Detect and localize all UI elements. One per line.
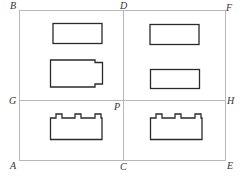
label-a: A	[10, 161, 16, 171]
shape-middle-right	[151, 70, 200, 89]
label-p: P	[114, 102, 120, 112]
label-g: G	[9, 96, 16, 106]
label-c: C	[120, 162, 127, 172]
label-d: D	[120, 1, 127, 11]
label-h: H	[227, 96, 234, 106]
shape-top-right	[150, 25, 199, 45]
label-b: B	[10, 1, 16, 11]
diagram-canvas	[0, 0, 243, 182]
label-f: F	[226, 3, 232, 13]
shape-bottom-right	[151, 114, 203, 140]
shape-middle-left	[51, 60, 103, 87]
label-e: E	[227, 161, 233, 171]
shape-top-left	[53, 24, 102, 44]
shape-bottom-left	[51, 114, 103, 140]
